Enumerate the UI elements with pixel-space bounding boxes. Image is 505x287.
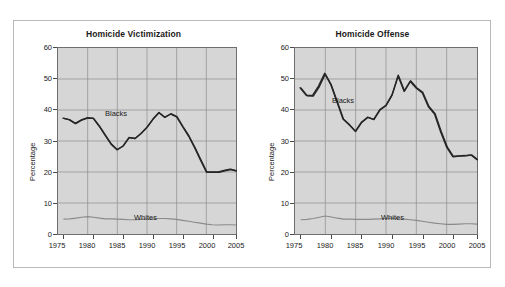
x-tick-mark-1995 <box>183 235 184 239</box>
y-tick-label-40: 40 <box>273 105 289 114</box>
x-tick-label-1990: 1990 <box>134 241 160 250</box>
plot-svg-victimization <box>58 48 236 234</box>
x-tick-mark-1990 <box>392 235 393 239</box>
series-line-blacks-offense <box>301 74 477 160</box>
x-tick-label-1985: 1985 <box>104 241 130 250</box>
y-tick-label-0: 0 <box>36 230 52 239</box>
x-tick-mark-1975 <box>63 235 64 239</box>
x-tick-label-1975: 1975 <box>281 241 307 250</box>
x-tick-label-2000: 2000 <box>434 241 460 250</box>
y-tick-label-20: 20 <box>36 168 52 177</box>
x-tick-label-1995: 1995 <box>404 241 430 250</box>
y-tick-label-10: 10 <box>36 199 52 208</box>
chart-title-victimization: Homicide Victimization <box>14 29 253 39</box>
x-tick-label-2005: 2005 <box>223 241 249 250</box>
x-tick-mark-1985 <box>123 235 124 239</box>
chart-title-offense: Homicide Offense <box>253 29 492 39</box>
x-tick-label-1990: 1990 <box>373 241 399 250</box>
plot-area-offense <box>294 47 478 235</box>
x-tick-label-1985: 1985 <box>342 241 368 250</box>
y-tick-label-60: 60 <box>36 43 52 52</box>
plot-area-victimization <box>57 47 237 235</box>
series-annotation-blacks-victimization: Blacks <box>105 109 127 118</box>
x-tick-mark-2005 <box>236 235 237 239</box>
x-tick-label-1980: 1980 <box>74 241 100 250</box>
x-tick-mark-1980 <box>331 235 332 239</box>
x-tick-label-1975: 1975 <box>44 241 70 250</box>
series-annotation-blacks-offense: Blacks <box>332 96 354 105</box>
series-annotation-whites-victimization: Whites <box>134 213 157 222</box>
y-tick-label-20: 20 <box>273 168 289 177</box>
chart-panel-offense: Homicide Offense Percentage 60 50 40 30 … <box>253 21 492 269</box>
y-tick-label-30: 30 <box>36 137 52 146</box>
y-tick-label-10: 10 <box>273 199 289 208</box>
figure-frame: Homicide Victimization Percentage 60 50 … <box>13 20 491 268</box>
x-tick-label-1995: 1995 <box>164 241 190 250</box>
x-tick-mark-1985 <box>361 235 362 239</box>
series-line-blacks-victimization <box>64 113 236 172</box>
x-tick-mark-2000 <box>213 235 214 239</box>
x-tick-label-2005: 2005 <box>464 241 490 250</box>
y-tick-label-60: 60 <box>273 43 289 52</box>
x-tick-mark-1975 <box>300 235 301 239</box>
x-tick-mark-2005 <box>477 235 478 239</box>
y-tick-label-0: 0 <box>273 230 289 239</box>
x-tick-label-1980: 1980 <box>312 241 338 250</box>
series-annotation-whites-offense: Whites <box>381 213 404 222</box>
chart-panel-victimization: Homicide Victimization Percentage 60 50 … <box>14 21 253 269</box>
plot-svg-offense <box>295 48 477 234</box>
x-tick-mark-1990 <box>153 235 154 239</box>
x-tick-mark-2000 <box>453 235 454 239</box>
x-tick-mark-1995 <box>423 235 424 239</box>
y-tick-label-40: 40 <box>36 105 52 114</box>
x-tick-mark-1980 <box>93 235 94 239</box>
x-tick-label-2000: 2000 <box>194 241 220 250</box>
y-tick-label-50: 50 <box>273 74 289 83</box>
y-tick-label-30: 30 <box>273 137 289 146</box>
y-tick-label-50: 50 <box>36 74 52 83</box>
